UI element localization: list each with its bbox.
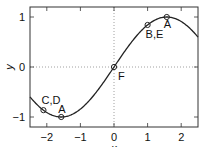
point-label: C,D xyxy=(41,94,60,106)
point-label: F xyxy=(118,70,125,82)
x-tick-label: 2 xyxy=(178,131,184,143)
y-tick-label: −1 xyxy=(12,111,25,123)
x-tick-label: 1 xyxy=(145,131,151,143)
sine-curve-chart: −2−1012 −101 AB,EFAC,D y x xyxy=(0,0,207,147)
point-label: A xyxy=(164,18,172,30)
x-tick-label: −2 xyxy=(41,131,54,143)
x-tick-label: −1 xyxy=(74,131,87,143)
y-axis-label: y xyxy=(3,63,15,71)
point-label: B,E xyxy=(146,28,164,40)
y-tick-label: 1 xyxy=(19,11,25,23)
y-tick-label: 0 xyxy=(19,61,25,73)
x-axis-label: x xyxy=(110,142,117,147)
